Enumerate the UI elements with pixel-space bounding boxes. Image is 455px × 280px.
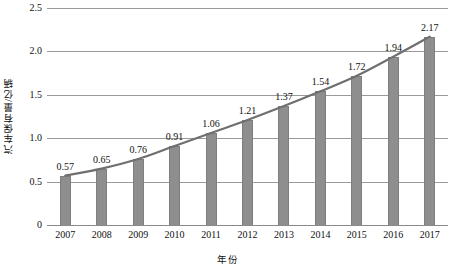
x-axis-tick-label: 2014 [310,230,330,240]
chart-container: 汽车保有量/亿辆 00.51.01.52.02.5 0.570.650.760.… [0,0,455,280]
data-label: 1.94 [385,43,403,53]
x-axis-tick-label: 2010 [165,230,185,240]
data-label: 1.06 [202,119,220,129]
data-label: 0.91 [166,132,184,142]
y-axis-tick-label: 0 [37,220,42,230]
x-axis-tick-label: 2008 [92,230,112,240]
x-axis-title: 年份 [0,252,455,266]
y-axis-tick-label: 1.5 [30,90,43,100]
data-label: 0.57 [56,162,74,172]
x-axis-tick-label: 2012 [238,230,258,240]
data-label: 1.37 [275,92,293,102]
y-axis-tick-label: 0.5 [30,177,43,187]
data-labels: 0.570.650.760.911.061.211.371.541.721.94… [47,8,448,225]
x-axis-tick-label: 2011 [201,230,221,240]
x-axis-tick-label: 2007 [55,230,75,240]
data-label: 1.72 [348,62,366,72]
data-label: 2.17 [421,23,439,33]
y-axis-title-text: 汽车保有量/亿辆 [2,78,16,154]
x-axis-tick-label: 2013 [274,230,294,240]
data-label: 0.76 [129,145,147,155]
x-axis-tick-label: 2016 [383,230,403,240]
data-label: 0.65 [93,155,111,165]
y-axis-tick-label: 2.0 [30,46,43,56]
x-axis-tick-label: 2009 [128,230,148,240]
gridline [47,225,448,226]
x-axis-tick-labels: 2007200820092010201120122013201420152016… [47,230,448,248]
y-axis-tick-label: 1.0 [30,133,43,143]
data-label: 1.54 [312,77,330,87]
y-axis-tick-label: 2.5 [30,3,43,13]
y-axis-tick-labels: 00.51.01.52.02.5 [16,0,46,232]
x-axis-tick-label: 2017 [420,230,440,240]
plot-area: 0.570.650.760.911.061.211.371.541.721.94… [47,8,448,225]
data-label: 1.21 [239,106,257,116]
x-axis-tick-label: 2015 [347,230,367,240]
